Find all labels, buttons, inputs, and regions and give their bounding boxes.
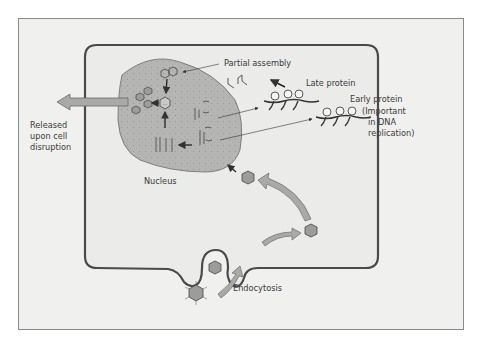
label-endocytosis: Endocytosis: [233, 283, 282, 294]
label-nucleus: Nucleus: [144, 176, 177, 187]
label-partial-assembly: Partial assembly: [224, 58, 291, 69]
label-late-protein: Late protein: [306, 78, 356, 89]
label-early-note-2: in DNA: [368, 117, 396, 128]
assembling-virion: …: [160, 97, 170, 109]
label-early-note-1: (Important: [362, 106, 406, 117]
svg-text:…: …: [163, 100, 168, 106]
label-released-2: upon cell: [30, 131, 67, 142]
diagram-canvas: …: [0, 0, 483, 349]
label-early-note-3: replication): [368, 128, 414, 139]
label-released-3: disruption: [30, 142, 71, 153]
label-released-1: Released: [30, 120, 67, 131]
label-early-protein: Early protein: [350, 94, 402, 105]
